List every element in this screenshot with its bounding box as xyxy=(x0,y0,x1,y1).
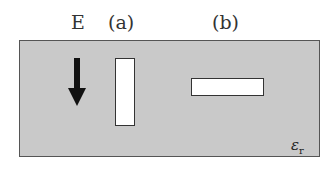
dielectric-slab xyxy=(19,40,320,157)
field-label-E: E xyxy=(71,13,85,32)
epsilon-symbol: ε xyxy=(291,136,299,154)
epsilon-subscript: r xyxy=(299,145,304,156)
cavity-a-label: (a) xyxy=(108,13,134,32)
cavity-b-label: (b) xyxy=(212,13,239,32)
cavity-a-vertical xyxy=(115,58,135,126)
permittivity-label: εr xyxy=(291,136,304,156)
cavity-b-horizontal xyxy=(191,78,264,96)
field-arrow-down-icon xyxy=(68,58,86,106)
